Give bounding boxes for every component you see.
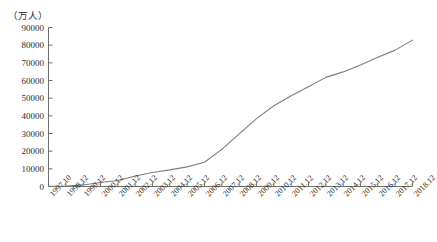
data-series-line: [49, 40, 413, 186]
